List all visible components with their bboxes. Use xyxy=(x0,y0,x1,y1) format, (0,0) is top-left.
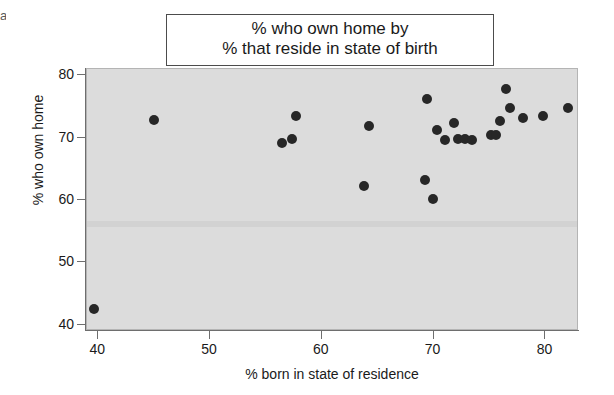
y-axis-tick-mark xyxy=(77,199,85,200)
x-axis-line xyxy=(85,330,579,331)
data-point xyxy=(518,113,528,123)
x-axis-tick-mark xyxy=(433,331,434,339)
chart-title-box: % who own home by % that reside in state… xyxy=(166,14,494,66)
x-axis-tick-label: 80 xyxy=(524,341,564,357)
data-point xyxy=(89,304,99,314)
data-point xyxy=(277,138,287,148)
data-point xyxy=(505,103,515,113)
y-axis-tick-mark xyxy=(77,137,85,138)
y-axis-tick-label-wrap: 50 xyxy=(0,254,74,268)
data-point xyxy=(291,111,301,121)
data-point xyxy=(440,135,450,145)
data-point xyxy=(467,135,477,145)
x-axis-tick-mark xyxy=(544,331,545,339)
y-axis-tick-label: 60 xyxy=(44,192,74,206)
x-axis-tick-label: 50 xyxy=(189,341,229,357)
data-point xyxy=(359,181,369,191)
data-point xyxy=(495,116,505,126)
data-point xyxy=(432,125,442,135)
data-point xyxy=(420,175,430,185)
x-axis-tick-mark xyxy=(321,331,322,339)
y-axis-line xyxy=(85,68,86,331)
y-axis-tick-label: 40 xyxy=(44,317,74,331)
y-axis-tick-mark xyxy=(77,74,85,75)
y-axis-title: % who own home xyxy=(30,50,46,250)
plot-panel xyxy=(86,68,578,330)
scatter-plot-figure: a % who own home by % that reside in sta… xyxy=(0,0,614,395)
y-axis-tick-mark xyxy=(77,324,85,325)
data-point xyxy=(563,103,573,113)
data-point xyxy=(449,118,459,128)
y-axis-tick-label: 80 xyxy=(44,67,74,81)
x-axis-tick-label: 60 xyxy=(301,341,341,357)
y-axis-tick-label: 50 xyxy=(44,254,74,268)
data-point xyxy=(149,115,159,125)
figure-corner-mark: a xyxy=(0,8,6,24)
data-point xyxy=(422,94,432,104)
y-axis-tick-label: 70 xyxy=(44,130,74,144)
x-axis-tick-mark xyxy=(97,331,98,339)
chart-title-line-2: % that reside in state of birth xyxy=(173,39,487,59)
chart-title-line-1: % who own home by xyxy=(173,19,487,39)
x-axis-title: % born in state of residence xyxy=(86,366,578,382)
y-axis-tick-mark xyxy=(77,261,85,262)
data-point xyxy=(491,130,501,140)
x-axis-tick-label: 40 xyxy=(77,341,117,357)
y-axis-tick-label-wrap: 40 xyxy=(0,317,74,331)
x-axis-tick-mark xyxy=(209,331,210,339)
data-point xyxy=(428,194,438,204)
data-point xyxy=(287,134,297,144)
x-axis-tick-label: 70 xyxy=(413,341,453,357)
data-point xyxy=(364,121,374,131)
data-point xyxy=(538,111,548,121)
data-point xyxy=(501,84,511,94)
